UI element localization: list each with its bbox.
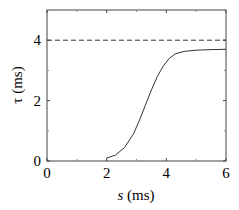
- x-tick-label: 0: [43, 165, 51, 181]
- plot-frame: [47, 10, 226, 161]
- y-tick-label: 4: [34, 32, 42, 48]
- y-tick-label: 0: [34, 153, 42, 169]
- chart: 0246024 s (ms) τ (ms): [0, 0, 239, 210]
- x-tick-label: 4: [163, 165, 171, 181]
- y-tick-label: 2: [34, 93, 42, 109]
- x-tick-label: 2: [103, 165, 111, 181]
- tau-curve: [107, 49, 226, 158]
- x-tick-label: 6: [222, 165, 230, 181]
- y-axis-label: τ (ms): [9, 66, 26, 103]
- x-axis-label: s (ms): [117, 187, 154, 204]
